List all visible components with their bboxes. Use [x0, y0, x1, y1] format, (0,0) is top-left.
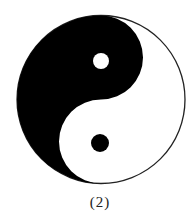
yin-yang-icon — [0, 0, 196, 219]
light-dot — [93, 53, 109, 69]
figure-caption: (2) — [0, 194, 196, 211]
dark-dot — [91, 134, 109, 152]
yin-yang-figure: (2) — [0, 0, 196, 219]
